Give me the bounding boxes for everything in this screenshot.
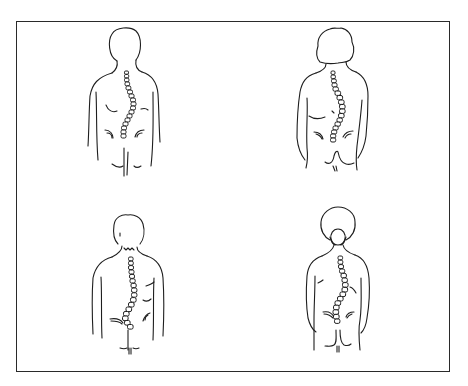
figure-3: right thoracolumbar: [92, 215, 164, 354]
spine-figure-2: [331, 71, 346, 142]
figure-2: right thoracic, left lumbar: [297, 28, 368, 171]
spine-figure-4: [333, 256, 348, 323]
figure-1: right thoracic, left lumbar: [88, 28, 160, 176]
spine-figure-1: [121, 71, 136, 138]
figure-4: right thoracic, left lumbar: [306, 207, 369, 352]
scoliosis-illustration: right thoracic, left lumbar: [0, 0, 468, 386]
spine-figure-3: [123, 257, 137, 329]
